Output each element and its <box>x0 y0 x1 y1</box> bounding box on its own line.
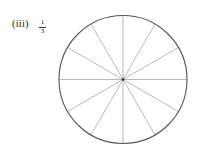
sector-divider-line <box>91 80 123 135</box>
sector-divider-line <box>91 24 123 79</box>
sector-divider-line <box>68 48 123 80</box>
sector-divider-line <box>123 48 178 80</box>
sector-divider-line <box>68 80 123 112</box>
sector-divider-line <box>123 80 178 112</box>
divided-circle <box>0 0 198 151</box>
sector-divider-line <box>123 24 155 79</box>
center-point <box>122 78 124 80</box>
sector-divider-line <box>123 80 155 135</box>
